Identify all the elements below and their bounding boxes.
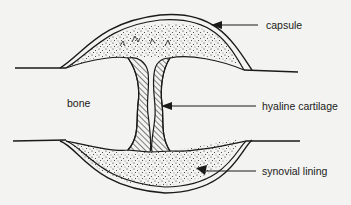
right-bone-top-edge bbox=[244, 70, 298, 72]
right-bone-end bbox=[161, 57, 246, 151]
label-hyaline-cartilage: hyaline cartilage bbox=[262, 101, 338, 112]
left-hyaline-cartilage bbox=[128, 58, 151, 152]
label-synovial-lining: synovial lining bbox=[262, 166, 327, 177]
upper-synovial-fluid bbox=[66, 24, 240, 68]
left-bone-bottom-edge bbox=[13, 140, 66, 141]
label-bone: bone bbox=[67, 98, 90, 109]
synovial-joint-diagram: bone capsule hyaline cartilage synovial … bbox=[0, 0, 351, 205]
label-capsule: capsule bbox=[266, 20, 302, 31]
